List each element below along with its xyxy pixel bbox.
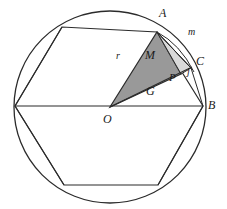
point-label-C: C	[196, 55, 204, 67]
segment-label-j: j	[187, 67, 190, 77]
region-label-M: M	[145, 49, 155, 61]
chord-h2-h1	[15, 27, 62, 106]
point-label-A: A	[159, 7, 166, 19]
segment-label-r: r	[116, 51, 120, 61]
point-label-P: P	[169, 72, 176, 83]
point-label-O: O	[103, 113, 112, 125]
chord-b-h5	[158, 106, 203, 185]
point-label-B: B	[208, 99, 215, 111]
segment-label-m: m	[188, 27, 195, 37]
line-C-B	[191, 68, 203, 106]
segment-label-G: G	[146, 85, 155, 97]
geometry-figure: A B C O P M G r m j	[0, 0, 227, 209]
